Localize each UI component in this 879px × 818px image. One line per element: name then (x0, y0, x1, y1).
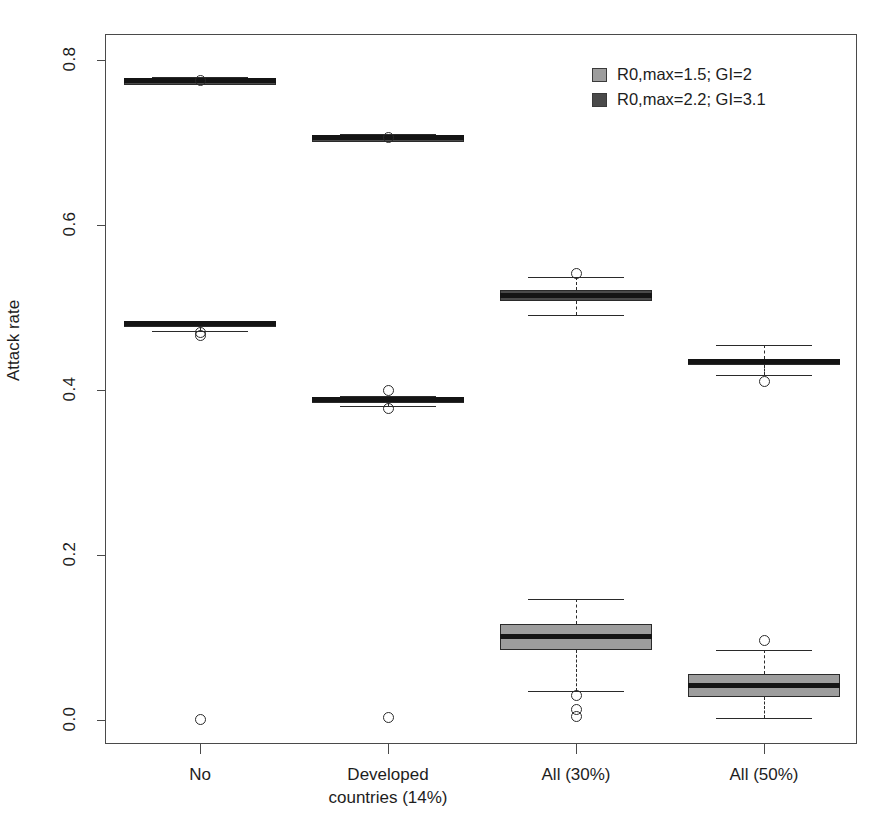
x-axis-tick (764, 743, 765, 754)
whisker-line-lower (764, 365, 765, 375)
x-axis-tick-label-line: countries (14%) (293, 786, 483, 809)
x-axis-tick-label: All (50%) (669, 763, 859, 786)
outlier-point (383, 385, 394, 396)
plot-area: 0.00.20.40.60.8NoDevelopedcountries (14%… (106, 35, 856, 743)
y-axis-tick-label: 0.4 (60, 369, 80, 409)
legend-swatch-icon (592, 93, 607, 107)
y-axis-tick-label: 0.6 (60, 204, 80, 244)
median-line (688, 683, 840, 688)
median-line (124, 321, 276, 326)
legend-item-label: R0,max=1.5; GI=2 (617, 62, 752, 87)
outlier-point (571, 268, 582, 279)
x-axis-tick-label-line: All (30%) (481, 763, 671, 786)
outlier-point (195, 330, 206, 341)
legend-item: R0,max=2.2; GI=3.1 (592, 87, 766, 112)
x-axis-tick-label-line: No (105, 763, 295, 786)
whisker-line-upper (764, 345, 765, 359)
x-axis-tick (200, 743, 201, 754)
median-line (688, 359, 840, 364)
outlier-point (571, 690, 582, 701)
y-axis-title: Attack rate (4, 359, 24, 381)
median-line (500, 293, 652, 298)
y-axis-tick (97, 60, 106, 61)
y-axis-tick (97, 555, 106, 556)
whisker-line-lower (576, 301, 577, 315)
legend-item-label: R0,max=2.2; GI=3.1 (617, 87, 766, 112)
x-axis-tick-label: No (105, 763, 295, 786)
whisker-cap-lower (716, 718, 812, 719)
whisker-line-lower (576, 650, 577, 691)
y-axis-tick (97, 390, 106, 391)
plot-frame: 0.00.20.40.60.8NoDevelopedcountries (14%… (105, 34, 857, 744)
outlier-point (759, 635, 770, 646)
chart-legend: R0,max=1.5; GI=2R0,max=2.2; GI=3.1 (592, 62, 766, 112)
y-axis-tick-label: 0.2 (60, 534, 80, 574)
whisker-cap-lower (528, 315, 624, 316)
outlier-point (195, 714, 206, 725)
y-axis-tick-label: 0.0 (60, 699, 80, 739)
outlier-point (383, 132, 394, 143)
median-line (500, 634, 652, 639)
whisker-line-upper (764, 650, 765, 674)
whisker-cap-upper (716, 345, 812, 346)
boxplot-figure: Attack rate 0.00.20.40.60.8NoDevelopedco… (0, 0, 879, 818)
whisker-line-lower (764, 697, 765, 718)
outlier-point (571, 711, 582, 722)
whisker-cap-upper (528, 599, 624, 600)
median-line (312, 397, 464, 402)
whisker-cap-upper (716, 650, 812, 651)
x-axis-tick (388, 743, 389, 754)
x-axis-tick (576, 743, 577, 754)
x-axis-tick-label: Developedcountries (14%) (293, 763, 483, 809)
legend-swatch-icon (592, 68, 607, 82)
outlier-point (383, 712, 394, 723)
y-axis-tick (97, 720, 106, 721)
y-axis-tick (97, 225, 106, 226)
x-axis-tick-label-line: Developed (293, 763, 483, 786)
outlier-point (383, 403, 394, 414)
y-axis-tick-label: 0.8 (60, 39, 80, 79)
x-axis-tick-label-line: All (50%) (669, 763, 859, 786)
outlier-point (759, 376, 770, 387)
whisker-line-upper (576, 599, 577, 625)
legend-item: R0,max=1.5; GI=2 (592, 62, 766, 87)
outlier-point (195, 75, 206, 86)
x-axis-tick-label: All (30%) (481, 763, 671, 786)
